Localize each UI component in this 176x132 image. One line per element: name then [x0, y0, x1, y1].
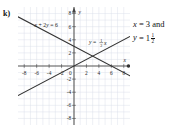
answer-conjunction: and [152, 19, 164, 29]
x-tick-label: -4 [47, 70, 52, 76]
x-tick-label: -8 [22, 70, 27, 76]
y-tick-label: 6 [68, 24, 71, 30]
y-tick-label: -8 [67, 115, 72, 121]
y-tick-label: 4 [68, 37, 71, 43]
svg-text:x: x [103, 40, 107, 46]
svg-text:2: 2 [100, 43, 102, 48]
answer-y-fraction: 1 2 [151, 33, 155, 45]
origin-label: 0 [69, 70, 72, 76]
y-tick-label: -2 [67, 76, 72, 82]
svg-text:y =: y = [88, 39, 96, 45]
worked-solution-figure: k) [0, 0, 176, 132]
graph-svg: -8 -6 -4 -2 2 4 6 8 0 8 6 4 2 -2 -4 -6 -… [18, 7, 130, 125]
coordinate-plane: -8 -6 -4 -2 2 4 6 8 0 8 6 4 2 -2 -4 -6 -… [18, 7, 130, 125]
x-tick-label: -6 [34, 70, 39, 76]
svg-text:1: 1 [100, 38, 102, 43]
answer-y-variable: y [133, 32, 137, 42]
answer-line-x: x = 3 and [133, 18, 175, 31]
answer-x-value: = 3 [139, 19, 150, 29]
answer-y-value: = 1 1 2 [139, 32, 155, 45]
x-axis-label: x [123, 57, 127, 63]
y-tick-label: 8 [68, 10, 71, 16]
part-label: k) [3, 10, 10, 18]
line-label-x-plus-2y-equals-6: x + 2y = 6 [34, 22, 58, 28]
answer-line-y: y = 1 1 2 [133, 31, 175, 45]
y-tick-label: -4 [67, 89, 72, 95]
y-axis-label: y [78, 9, 82, 15]
x-tick-label: 4 [98, 70, 101, 76]
answer-y-whole: = 1 [139, 32, 150, 45]
x-tick-label: 6 [110, 70, 113, 76]
answer-x-variable: x [133, 19, 137, 29]
x-axis-end-marker [127, 64, 130, 67]
y-tick-label: 2 [68, 50, 71, 56]
answer-block: x = 3 and y = 1 1 2 [133, 18, 175, 45]
y-tick-label: -6 [67, 102, 72, 108]
fraction-denominator: 2 [151, 38, 155, 44]
x-tick-label: 2 [85, 70, 88, 76]
